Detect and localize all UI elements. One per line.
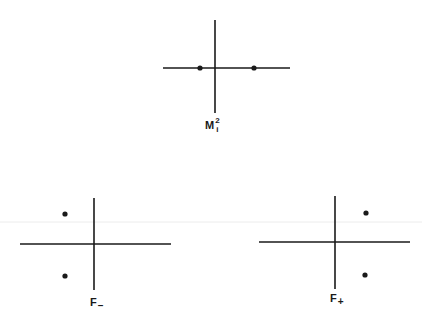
f-minus-label-base: F: [90, 296, 97, 308]
f-minus-label-sub: –: [98, 300, 104, 311]
f-minus-point-lower: [62, 273, 67, 278]
f-plus-plane: [259, 196, 410, 289]
f-plus-label-base: F: [330, 292, 337, 304]
m2-label-base: M: [205, 119, 214, 131]
f-plus-label: F+: [330, 293, 344, 304]
m2-plane: [163, 20, 290, 113]
m2-label-sub: i: [216, 126, 218, 134]
m2-label: M2i: [205, 120, 221, 132]
m2-label-sup: 2: [215, 117, 219, 125]
f-plus-point-lower: [362, 272, 367, 277]
f-minus-plane: [20, 198, 171, 290]
m2-point-left: [197, 65, 202, 70]
diagram-canvas: [0, 0, 422, 324]
f-plus-point-upper: [363, 210, 368, 215]
f-plus-label-sub: +: [338, 296, 344, 307]
f-minus-label: F–: [90, 297, 103, 308]
f-minus-point-upper: [62, 211, 67, 216]
m2-point-right: [251, 65, 256, 70]
